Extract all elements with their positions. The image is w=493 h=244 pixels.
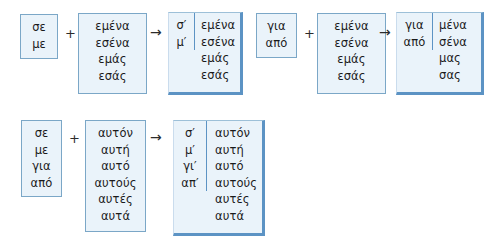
arrow-operator: → bbox=[379, 26, 391, 39]
word: αυτό bbox=[101, 158, 130, 175]
diagram-canvas: σε με + εμένα εσένα εμάς εσάς → σ′ μ′ εμ… bbox=[0, 0, 493, 244]
word: αυτά bbox=[101, 208, 130, 225]
arrow-operator: → bbox=[150, 131, 162, 144]
operand-box-se-me-gia-apo: σε με για από bbox=[21, 120, 62, 197]
result-box-group2: για από μένα σένα μας σας bbox=[396, 12, 484, 95]
result-box-group3: σ′ μ′ γι′ απ′ αυτόν αυτή αυτό αυτούς αυτ… bbox=[173, 120, 265, 236]
word: εμένα bbox=[334, 18, 368, 35]
word: σένα bbox=[439, 34, 467, 51]
word: αυτές bbox=[215, 191, 250, 208]
operand-box-afton: αυτόν αυτή αυτό αυτούς αυτές αυτά bbox=[85, 120, 146, 232]
plus-operator: + bbox=[69, 132, 80, 145]
word: εμάς bbox=[337, 51, 365, 68]
word: εσάς bbox=[98, 68, 126, 85]
word: εμένα bbox=[95, 18, 129, 35]
word: αυτά bbox=[215, 208, 244, 225]
plus-operator: + bbox=[304, 27, 315, 40]
word: από bbox=[266, 35, 288, 52]
word: μ′ bbox=[176, 34, 186, 51]
result-box-group1: σ′ μ′ εμένα εσένα εμάς εσάς bbox=[168, 12, 243, 95]
result-prefix-column: για από bbox=[397, 13, 433, 50]
word: εσάς bbox=[201, 67, 229, 84]
word: με bbox=[35, 142, 49, 159]
operand-box-emena-group1: εμένα εσένα εμάς εσάς bbox=[78, 13, 147, 94]
word: εμάς bbox=[201, 50, 229, 67]
word: εσένα bbox=[95, 35, 129, 52]
word: σε bbox=[35, 125, 49, 142]
word: εσάς bbox=[337, 68, 365, 85]
arrow-operator: → bbox=[150, 26, 162, 39]
word: μένα bbox=[439, 17, 467, 34]
word: για bbox=[32, 158, 51, 175]
word: εσένα bbox=[201, 34, 235, 51]
result-prefix-column: σ′ μ′ γι′ απ′ bbox=[174, 121, 207, 191]
word: για bbox=[267, 18, 286, 35]
result-value-column: μένα σένα μας σας bbox=[433, 13, 467, 83]
word: σ′ bbox=[185, 125, 195, 142]
word: μας bbox=[439, 50, 461, 67]
word: σε bbox=[32, 19, 46, 36]
word: εμένα bbox=[201, 17, 235, 34]
operand-box-gia-apo: για από bbox=[256, 13, 297, 58]
word: από bbox=[31, 175, 53, 192]
result-prefix-column: σ′ μ′ bbox=[169, 13, 195, 50]
word: μ′ bbox=[185, 142, 195, 159]
word: αυτές bbox=[98, 191, 133, 208]
word: με bbox=[32, 36, 46, 53]
word: σας bbox=[439, 67, 461, 84]
word: για bbox=[405, 17, 424, 34]
operand-box-se-me: σε με bbox=[20, 14, 58, 59]
word: απ′ bbox=[181, 175, 198, 192]
word: αυτούς bbox=[94, 175, 136, 192]
word: αυτούς bbox=[215, 175, 257, 192]
word: αυτό bbox=[215, 158, 244, 175]
word: γι′ bbox=[183, 158, 197, 175]
word: αυτόν bbox=[98, 125, 133, 142]
word: σ′ bbox=[176, 17, 186, 34]
result-value-column: εμένα εσένα εμάς εσάς bbox=[195, 13, 235, 83]
word: αυτή bbox=[215, 142, 244, 159]
word: από bbox=[404, 34, 426, 51]
word: εμάς bbox=[98, 51, 126, 68]
plus-operator: + bbox=[65, 27, 76, 40]
word: αυτόν bbox=[215, 125, 250, 142]
result-value-column: αυτόν αυτή αυτό αυτούς αυτές αυτά bbox=[207, 121, 257, 224]
word: εσένα bbox=[334, 35, 368, 52]
word: αυτή bbox=[101, 142, 130, 159]
operand-box-emena-group2: εμένα εσένα εμάς εσάς bbox=[317, 13, 386, 94]
